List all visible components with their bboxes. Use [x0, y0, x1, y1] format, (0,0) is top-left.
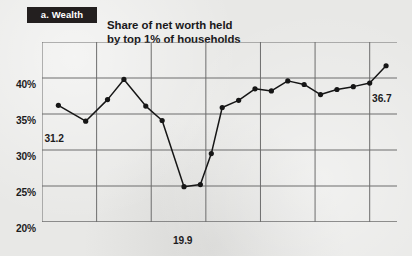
data-value-annotation: 31.2: [44, 133, 63, 144]
data-point-marker: [252, 86, 257, 91]
data-point-marker: [198, 182, 203, 187]
plot-area: [42, 42, 397, 222]
data-point-marker: [181, 184, 186, 189]
data-point-marker: [83, 119, 88, 124]
data-point-marker: [121, 77, 126, 82]
y-axis-tick-label: 30%: [4, 151, 36, 162]
data-point-marker: [318, 92, 323, 97]
y-axis-tick-label: 35%: [4, 115, 36, 126]
data-point-marker: [285, 78, 290, 83]
data-point-marker: [209, 151, 214, 156]
data-series-line: [58, 66, 386, 187]
data-point-marker: [269, 88, 274, 93]
data-point-marker: [236, 98, 241, 103]
chart-title-line-1: Share of net worth held: [107, 19, 337, 33]
data-point-marker: [160, 118, 165, 123]
y-axis-tick-label: 20%: [4, 223, 36, 234]
data-point-marker: [220, 105, 225, 110]
plot-svg: [42, 42, 397, 222]
wealth-share-chart-figure: a. Wealth Share of net worth held by top…: [0, 0, 412, 256]
data-point-marker: [105, 97, 110, 102]
y-axis-tick-label: 25%: [4, 187, 36, 198]
data-point-marker: [383, 63, 388, 68]
panel-badge: a. Wealth: [27, 7, 97, 23]
data-point-marker: [367, 80, 372, 85]
data-point-marker: [351, 84, 356, 89]
y-axis-tick-label: 40%: [4, 79, 36, 90]
data-point-marker: [56, 103, 61, 108]
data-value-annotation: 36.7: [372, 93, 391, 104]
data-point-marker: [334, 87, 339, 92]
data-point-marker: [143, 103, 148, 108]
data-point-marker: [302, 82, 307, 87]
data-value-annotation: 19.9: [173, 235, 192, 246]
